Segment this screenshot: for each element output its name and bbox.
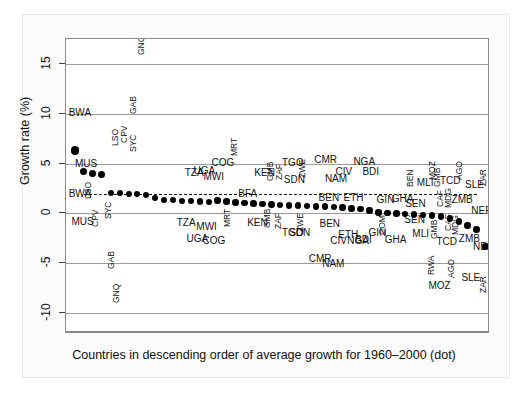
data-point <box>108 190 114 196</box>
y-tick-label--10: -10 <box>40 303 52 320</box>
country-label-cpv: CPV <box>120 125 129 142</box>
y-tick-label-5: 5 <box>40 159 52 166</box>
data-point <box>357 206 364 213</box>
data-point <box>188 198 194 204</box>
country-label-eth: ETH <box>344 193 364 203</box>
data-point <box>473 226 480 233</box>
country-label-sen: SEN <box>405 199 426 209</box>
country-label-zar: ZAR <box>479 276 488 293</box>
country-label-zmb: ZMB <box>452 195 473 205</box>
data-point <box>411 211 418 218</box>
country-label-nam: NAM <box>325 174 347 184</box>
country-label-mwi: MWI <box>204 172 225 182</box>
y-axis-title: Growth rate (%) <box>18 97 32 185</box>
country-label-cmr: CMR <box>314 155 337 165</box>
country-label-gnq: GNQ <box>137 38 146 55</box>
country-label-zwe: ZWE <box>296 213 305 232</box>
country-label-zaf: ZAF <box>275 163 284 179</box>
y-tick-mark-5 <box>59 163 65 164</box>
data-point <box>170 197 176 203</box>
country-label-zar: ZAR <box>479 169 488 186</box>
country-label-ben: BEN <box>320 219 341 229</box>
data-point <box>286 202 293 209</box>
data-point <box>250 200 257 207</box>
country-label-ben: BEN <box>319 193 340 203</box>
country-label-mwi: MWI <box>196 222 217 232</box>
country-label-bdi: BDI <box>362 167 379 177</box>
data-point <box>143 192 149 198</box>
country-label-mli: MLI <box>412 229 429 239</box>
y-tick-mark--10 <box>59 312 65 313</box>
country-label-tza: TZA <box>177 218 196 228</box>
data-point <box>71 146 80 155</box>
data-point <box>98 171 105 178</box>
data-point <box>304 203 311 210</box>
data-point <box>348 205 355 212</box>
data-point <box>89 170 96 177</box>
data-point <box>223 198 230 205</box>
data-point <box>117 190 123 196</box>
country-label-mus: MUS <box>75 159 97 169</box>
data-point <box>80 168 87 175</box>
data-point <box>241 200 248 207</box>
gridline--10 <box>66 313 488 314</box>
y-tick-mark-15 <box>59 63 65 64</box>
plot-area: GNQBWAGABLSOCPVSYCMUSCOGMRTTGOCMRNGATZAU… <box>65 38 489 332</box>
data-point <box>322 203 329 210</box>
country-label-ner: NER <box>471 206 489 216</box>
data-point <box>447 215 454 222</box>
data-point <box>375 209 382 216</box>
y-tick-label-15: 15 <box>40 56 52 69</box>
country-label-bfa: BFA <box>238 189 257 199</box>
data-point <box>313 203 320 210</box>
y-tick-label-10: 10 <box>40 106 52 119</box>
country-label-cpv: CPV <box>91 210 100 227</box>
country-label-ago: AGO <box>455 161 464 180</box>
country-label-gab: GAB <box>129 96 138 114</box>
country-label-tcd: TCD <box>436 237 457 247</box>
country-label-mrt: MRT <box>223 209 232 227</box>
country-label-lso: LSO <box>111 129 120 146</box>
country-label-nam: NAM <box>322 259 344 269</box>
data-point <box>464 222 471 229</box>
y-tick-label-0: 0 <box>40 209 52 216</box>
y-tick-label--5: -5 <box>40 257 52 268</box>
data-point <box>438 213 445 220</box>
data-point <box>214 197 221 204</box>
country-label-zwe: ZWE <box>298 159 307 178</box>
data-point <box>152 195 158 201</box>
country-label-gab: GAB <box>107 251 116 269</box>
data-point <box>295 202 302 209</box>
data-point <box>268 201 275 208</box>
country-label-syc: SYC <box>104 202 113 219</box>
country-label-syc: SYC <box>129 134 138 151</box>
data-point <box>331 204 338 211</box>
country-label-rwa: RWA <box>427 256 436 275</box>
data-point <box>420 212 427 219</box>
data-point <box>179 198 185 204</box>
data-point <box>232 199 239 206</box>
country-label-lso: LSO <box>84 181 93 198</box>
country-label-gnq: GNQ <box>112 284 121 303</box>
data-point <box>339 204 346 211</box>
x-axis-caption: Countries in descending order of average… <box>0 348 528 362</box>
data-point <box>456 218 463 225</box>
country-label-cog: COG <box>203 236 226 246</box>
country-label-ben: BEN <box>406 169 415 186</box>
data-point <box>429 212 436 219</box>
country-label-bwa: BWA <box>69 108 91 118</box>
country-label-ago: AGO <box>447 259 456 278</box>
gridline--5 <box>66 263 488 264</box>
data-point <box>384 210 391 217</box>
data-point <box>366 207 373 214</box>
figure-root: Growth rate (%) GNQBWAGABLSOCPVSYCMUSCOG… <box>0 0 528 396</box>
country-label-mrt: MRT <box>230 137 239 155</box>
country-label-gha: GHA <box>385 235 407 245</box>
data-point <box>259 201 266 208</box>
gridline-15 <box>66 64 488 65</box>
data-point <box>126 191 132 197</box>
data-point <box>393 210 400 217</box>
country-label-com: COM <box>378 215 387 235</box>
y-tick-mark-0 <box>59 212 65 213</box>
data-point <box>277 202 284 209</box>
